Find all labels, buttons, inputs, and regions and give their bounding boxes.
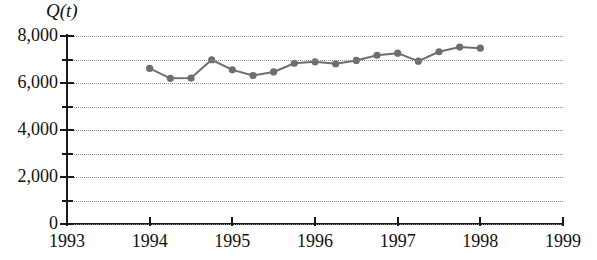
y-axis-tick-minor — [62, 59, 73, 61]
x-axis-tick — [149, 217, 151, 226]
gridline — [67, 60, 563, 61]
y-axis-tick-major — [60, 129, 74, 131]
data-point-marker — [456, 43, 463, 50]
y-axis-tick-minor — [62, 200, 73, 202]
data-point-marker — [229, 66, 236, 73]
y-axis-tick-minor — [62, 106, 73, 108]
x-axis-tick-label: 1993 — [32, 231, 102, 252]
y-axis-tick-major — [60, 176, 74, 178]
y-axis-tick-major — [60, 35, 74, 37]
x-axis-tick — [479, 217, 481, 226]
data-point-marker — [146, 65, 153, 72]
x-axis-tick — [314, 217, 316, 226]
x-axis-tick-label: 1998 — [445, 231, 515, 252]
x-axis-tick — [397, 217, 399, 226]
y-axis-tick-minor — [62, 153, 73, 155]
x-axis-tick-label: 1994 — [115, 231, 185, 252]
x-axis-tick-label: 1997 — [363, 231, 433, 252]
data-point-marker — [477, 45, 484, 52]
x-axis-tick-label: 1996 — [280, 231, 350, 252]
gridline — [67, 83, 563, 84]
gridline — [67, 36, 563, 37]
x-axis-tick — [562, 217, 564, 226]
chart-figure: Q(t) 02,0004,0006,0008,000 1993199419951… — [0, 0, 597, 260]
data-point-marker — [291, 60, 298, 67]
data-point-marker — [373, 52, 380, 59]
x-axis-tick-label: 1999 — [528, 231, 597, 252]
x-axis-tick-label: 1995 — [197, 231, 267, 252]
data-point-marker — [187, 74, 194, 81]
data-point-marker — [249, 72, 256, 79]
y-axis-tick-major — [60, 82, 74, 84]
data-point-marker — [332, 60, 339, 67]
gridline — [67, 201, 563, 202]
x-axis-tick — [66, 217, 68, 226]
gridline — [67, 154, 563, 155]
gridline — [67, 107, 563, 108]
gridline — [67, 177, 563, 178]
gridline — [67, 130, 563, 131]
data-point-marker — [167, 75, 174, 82]
data-point-marker — [435, 48, 442, 55]
data-point-marker — [394, 50, 401, 57]
y-axis-title: Q(t) — [46, 0, 78, 22]
data-point-marker — [270, 68, 277, 75]
x-axis-tick — [231, 217, 233, 226]
